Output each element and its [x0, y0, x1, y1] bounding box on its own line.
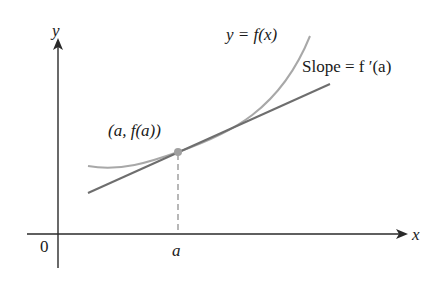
y-axis-label: y: [52, 22, 60, 39]
tangent-line-diagram: y x 0 a y = f(x) Slope = f ′(a) (a, f(a)…: [0, 0, 440, 288]
slope-label: Slope = f ′(a): [302, 58, 391, 75]
origin-label: 0: [40, 238, 49, 255]
point-a-fa: [174, 148, 182, 156]
curve-label: y = f(x): [226, 26, 277, 43]
diagram-graphics: [0, 0, 440, 288]
point-label: (a, f(a)): [108, 122, 161, 139]
a-tick-label: a: [172, 242, 181, 259]
curve-f: [88, 36, 310, 168]
x-axis-label: x: [412, 226, 420, 243]
